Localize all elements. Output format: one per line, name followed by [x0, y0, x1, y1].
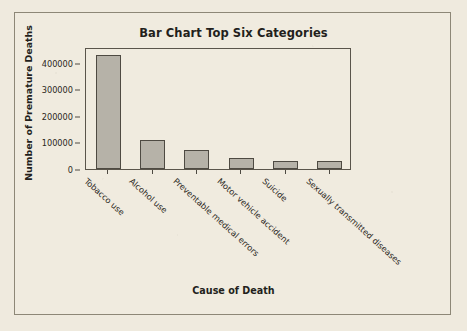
y-axis-tick-mark: [75, 63, 80, 64]
bar-suicide: [273, 161, 298, 169]
y-axis-tick-labels: 0100000200000300000400000: [30, 48, 80, 170]
x-axis-tick-mark: [107, 170, 108, 174]
x-axis-category-labels: Tobacco useAlcohol usePreventable medica…: [85, 176, 385, 276]
y-axis-tick-mark: [75, 143, 80, 144]
x-axis-tick-mark: [240, 170, 241, 174]
chart-title: Bar Chart Top Six Categories: [0, 26, 467, 40]
x-axis-category-label: Suicide: [260, 176, 289, 204]
x-axis-tick-mark: [285, 170, 286, 174]
x-axis-category-label: Tobacco use: [82, 176, 126, 217]
y-axis-tick-label: 200000: [42, 112, 73, 122]
y-axis-tick-label: 100000: [42, 138, 73, 148]
x-axis-tick-mark: [196, 170, 197, 174]
x-axis-tick-mark: [152, 170, 153, 174]
x-axis-tick-mark: [329, 170, 330, 174]
chart-page: Bar Chart Top Six Categories Number of P…: [0, 0, 467, 331]
bar-tobacco-use: [96, 55, 121, 169]
y-axis-tick-label: 0: [68, 165, 73, 175]
x-axis-category-label: Motor vehicle accident: [215, 176, 292, 246]
y-axis-tick-mark: [75, 116, 80, 117]
bars-container: [86, 49, 350, 169]
x-axis-title: Cause of Death: [0, 285, 467, 296]
y-axis-tick-label: 300000: [42, 85, 73, 95]
y-axis-tick-mark: [75, 90, 80, 91]
y-axis-tick-label: 400000: [42, 59, 73, 69]
x-axis-category-label: Alcohol use: [127, 176, 169, 215]
bar-sexually-transmitted-diseases: [317, 161, 342, 169]
bar-motor-vehicle-accident: [229, 158, 254, 169]
bar-alcohol-use: [140, 140, 165, 169]
x-axis-category-label: Preventable medical errors: [171, 176, 261, 258]
plot-area: [85, 48, 351, 170]
y-axis-tick-mark: [75, 170, 80, 171]
bar-preventable-medical-errors: [184, 150, 209, 169]
